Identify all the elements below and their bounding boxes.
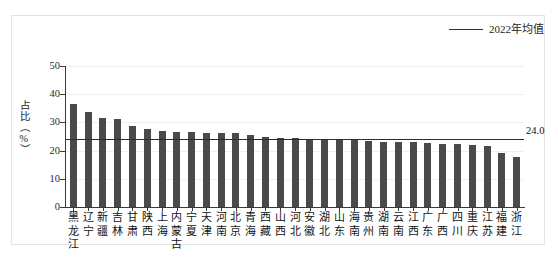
x-category-label: 宁夏 [185, 211, 199, 238]
x-category-label: 天津 [199, 211, 213, 238]
bar [85, 112, 92, 207]
bar [321, 139, 328, 207]
x-category-label: 安徽 [303, 211, 317, 238]
bar [351, 140, 358, 207]
bar [454, 144, 461, 207]
chart-figure: 2022年均值 占比（%） 01020304050 24.0 黑龙江辽宁新疆吉林… [0, 0, 558, 270]
mean-reference-line [66, 139, 524, 140]
bar [292, 138, 299, 207]
bar [188, 132, 195, 207]
bar [395, 142, 402, 207]
x-category-label: 江苏 [480, 211, 494, 238]
bar [484, 146, 491, 207]
y-tick-mark [60, 207, 66, 208]
x-category-label: 内蒙古 [170, 211, 184, 252]
bar [173, 132, 180, 207]
y-tick-label: 10 [16, 173, 60, 184]
y-axis-tick-labels: 01020304050 [8, 0, 60, 270]
bar [277, 138, 284, 207]
bar [262, 137, 269, 208]
x-category-label: 上海 [155, 211, 169, 238]
bar [306, 139, 313, 207]
y-tick-mark [60, 151, 66, 152]
x-category-label: 河南 [214, 211, 228, 238]
x-category-label: 福建 [495, 211, 509, 238]
x-category-label: 山西 [273, 211, 287, 238]
bar [218, 133, 225, 207]
x-category-label: 湖北 [318, 211, 332, 238]
y-tick-label: 0 [16, 201, 60, 212]
y-tick-label: 20 [16, 145, 60, 156]
bar [410, 142, 417, 207]
x-category-label: 黑龙江 [66, 211, 80, 252]
x-category-label: 青海 [244, 211, 258, 238]
x-category-label: 广西 [436, 211, 450, 238]
x-category-label: 河北 [288, 211, 302, 238]
x-category-label: 湖南 [377, 211, 391, 238]
y-tick-mark [60, 66, 66, 67]
bar [70, 104, 77, 207]
bar [336, 139, 343, 207]
x-category-label: 浙江 [510, 211, 524, 238]
x-category-label: 新疆 [96, 211, 110, 238]
x-category-label: 贵州 [362, 211, 376, 238]
bar [144, 129, 151, 207]
x-category-label: 西藏 [258, 211, 272, 238]
bar [159, 131, 166, 207]
x-category-label: 海南 [347, 211, 361, 238]
bar [247, 135, 254, 207]
y-tick-label: 30 [16, 116, 60, 127]
y-tick-mark [60, 94, 66, 95]
bar [232, 133, 239, 207]
legend-line-swatch [449, 29, 483, 30]
x-category-label: 吉林 [111, 211, 125, 238]
x-category-label: 四川 [451, 211, 465, 238]
bar [114, 119, 121, 207]
mean-value-label: 24.0 [526, 125, 544, 136]
chart-legend: 2022年均值 [449, 22, 544, 36]
bar [203, 133, 210, 207]
x-category-label: 江西 [406, 211, 420, 238]
legend-label-mean: 2022年均值 [489, 23, 544, 35]
bar [365, 141, 372, 207]
bar [424, 143, 431, 207]
y-tick-label: 50 [16, 60, 60, 71]
bar [469, 145, 476, 207]
x-category-label: 北京 [229, 211, 243, 238]
bar [439, 144, 446, 207]
x-category-label: 山东 [332, 211, 346, 238]
y-tick-label: 40 [16, 88, 60, 99]
x-category-label: 陕西 [140, 211, 154, 238]
x-category-label: 重庆 [465, 211, 479, 238]
bar [380, 142, 387, 207]
x-axis-category-labels: 黑龙江辽宁新疆吉林甘肃陕西上海内蒙古宁夏天津河南北京青海西藏山西河北安徽湖北山东… [66, 211, 524, 267]
x-category-label: 云南 [391, 211, 405, 238]
y-tick-mark [60, 122, 66, 123]
bar [513, 157, 520, 207]
x-category-label: 广东 [421, 211, 435, 238]
x-category-label: 辽宁 [81, 211, 95, 238]
bar [99, 118, 106, 207]
bar [498, 153, 505, 207]
x-category-label: 甘肃 [125, 211, 139, 238]
y-tick-mark [60, 179, 66, 180]
bar [129, 126, 136, 207]
bar-series [66, 66, 524, 207]
